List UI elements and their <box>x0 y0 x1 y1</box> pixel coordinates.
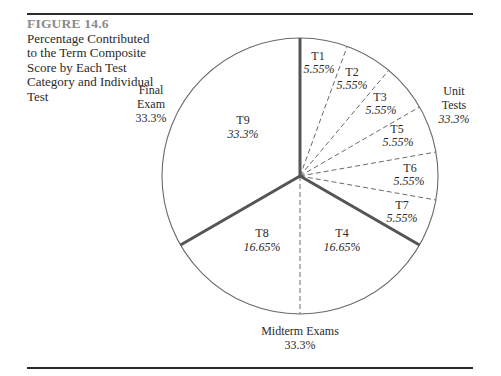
slice-label-t7: T7 <box>395 198 408 212</box>
category-midterm-name: Midterm Exams <box>261 324 339 338</box>
category-final-name: Final <box>139 83 164 97</box>
slice-label-t2: T2 <box>345 65 358 79</box>
slice-pct-t1: 5.55% <box>304 62 335 76</box>
slice-label-t1: T1 <box>311 49 324 63</box>
slice-label-t9: T9 <box>236 113 249 127</box>
category-unit-name: Unit <box>443 84 465 98</box>
slice-label-t4: T4 <box>335 226 348 240</box>
slice-pct-t3: 5.55% <box>366 103 397 117</box>
category-unit-name2: Tests <box>442 98 467 112</box>
slice-pct-t8: 16.65% <box>244 240 281 254</box>
category-final-name2: Exam <box>137 97 166 111</box>
slice-label-t5: T5 <box>390 122 403 136</box>
category-final-pct: 33.3% <box>136 111 167 125</box>
pie-chart: T1 5.55% T2 5.55% T3 5.55% T5 5.55% T6 5… <box>0 0 501 376</box>
slice-pct-t9: 33.3% <box>227 127 259 141</box>
slice-pct-t5: 5.55% <box>383 135 414 149</box>
category-unit-pct: 33.3% <box>438 112 470 126</box>
category-midterm-pct: 33.3% <box>285 338 316 352</box>
slice-label-t3: T3 <box>373 90 386 104</box>
slice-pct-t7: 5.55% <box>387 211 418 225</box>
slice-pct-t6: 5.55% <box>394 174 425 188</box>
slice-pct-t4: 16.65% <box>324 240 361 254</box>
slice-label-t8: T8 <box>255 226 268 240</box>
slice-label-t6: T6 <box>403 161 416 175</box>
slice-pct-t2: 5.55% <box>337 78 368 92</box>
